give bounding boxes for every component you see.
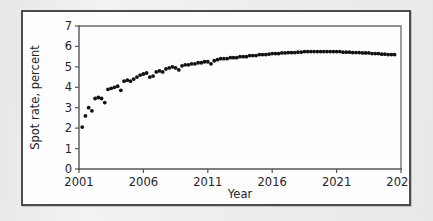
data-point: [267, 52, 271, 56]
data-point: [348, 50, 352, 54]
data-point: [93, 97, 97, 101]
data-point: [283, 51, 287, 55]
data-point: [119, 88, 123, 92]
data-point: [129, 79, 133, 83]
plot-frame: [79, 26, 401, 169]
y-tick-label: 0: [65, 162, 72, 176]
data-point: [299, 50, 303, 54]
data-point: [90, 109, 94, 113]
data-point: [170, 65, 174, 69]
data-point: [142, 72, 146, 76]
x-tick-label: 2006: [129, 175, 158, 189]
data-point: [264, 53, 268, 57]
spot-rate-scatter-chart: 01234567 200120062011201620212026 Year S…: [23, 12, 409, 204]
data-point: [206, 60, 210, 64]
y-tick-label: 3: [65, 101, 72, 115]
data-point: [106, 87, 110, 91]
y-tick-label: 6: [65, 39, 72, 53]
data-point: [116, 84, 120, 88]
data-point: [338, 50, 342, 54]
data-point: [199, 61, 203, 65]
data-point: [158, 69, 162, 73]
data-point: [357, 51, 361, 55]
data-point: [96, 96, 100, 100]
data-point: [174, 66, 178, 70]
data-point: [154, 70, 158, 74]
data-point: [164, 67, 168, 71]
y-axis-title: Spot rate, percent: [28, 45, 42, 150]
data-point: [125, 78, 129, 82]
data-point: [84, 114, 88, 118]
data-point: [393, 53, 397, 57]
data-point: [377, 52, 381, 56]
chart-area: 01234567 200120062011201620212026 Year S…: [23, 12, 409, 204]
data-point: [122, 79, 126, 83]
data-point: [138, 73, 142, 77]
y-tick-label: 4: [65, 80, 72, 94]
data-point: [113, 85, 117, 89]
data-point: [277, 52, 281, 56]
data-point: [383, 52, 387, 56]
x-axis-title: Year: [227, 187, 253, 201]
screenshot-canvas: 01234567 200120062011201620212026 Year S…: [0, 0, 433, 221]
x-tick-label: 2011: [193, 175, 222, 189]
data-point: [216, 58, 220, 62]
x-tick-label: 2001: [64, 175, 93, 189]
data-point: [167, 66, 171, 70]
data-point: [151, 74, 155, 78]
data-point: [209, 62, 213, 66]
x-axis: 200120062011201620212026: [64, 169, 409, 189]
data-point: [180, 64, 184, 68]
y-tick-label: 5: [65, 60, 72, 74]
data-point: [245, 55, 249, 59]
data-point: [212, 59, 216, 63]
data-point: [103, 101, 107, 105]
data-point: [235, 56, 239, 60]
data-point: [293, 51, 297, 55]
data-point: [225, 57, 229, 61]
data-series-spot-rate: [80, 50, 396, 129]
data-point: [148, 75, 152, 79]
data-point: [177, 68, 181, 72]
data-point: [367, 51, 371, 55]
data-point: [145, 71, 149, 75]
y-tick-label: 1: [65, 142, 72, 156]
figure-panel: 01234567 200120062011201620212026 Year S…: [21, 10, 411, 206]
data-point: [100, 97, 104, 101]
data-point: [80, 125, 84, 129]
data-point: [161, 70, 165, 74]
x-tick-label: 2026: [386, 175, 409, 189]
y-tick-label: 7: [65, 19, 72, 33]
x-tick-label: 2016: [258, 175, 287, 189]
data-point: [109, 86, 113, 90]
data-point: [193, 62, 197, 66]
data-point: [135, 75, 139, 79]
y-tick-label: 2: [65, 121, 72, 135]
data-point: [132, 77, 136, 81]
data-point: [87, 106, 91, 110]
data-point: [187, 63, 191, 67]
data-point: [254, 54, 258, 58]
y-axis: 01234567: [65, 19, 79, 176]
x-tick-label: 2021: [322, 175, 351, 189]
